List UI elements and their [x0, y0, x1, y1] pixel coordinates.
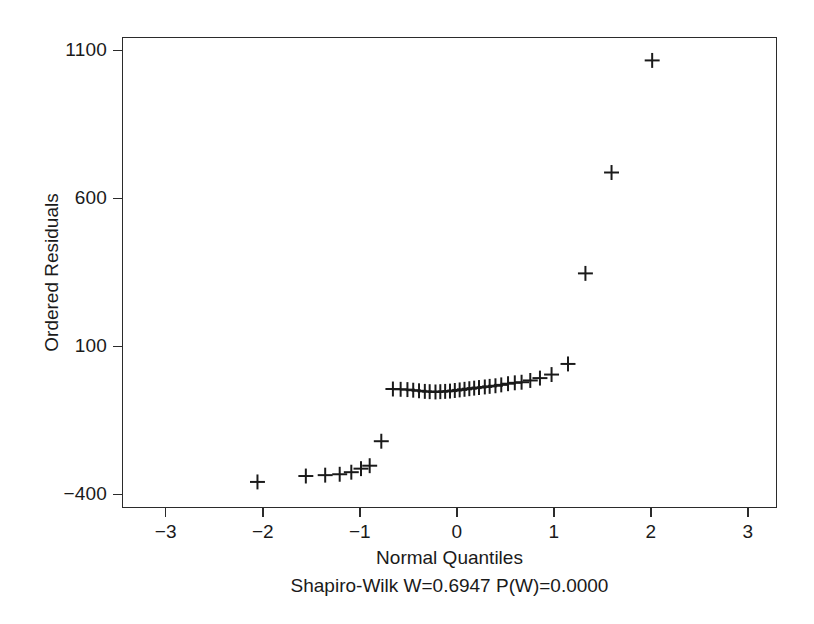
- x-axis-tick-label: 2: [646, 522, 657, 541]
- data-point-marker: [362, 458, 377, 473]
- data-point-marker: [578, 266, 593, 281]
- x-axis-tick-label: 1: [549, 522, 560, 541]
- x-axis-tick-mark: [262, 508, 264, 517]
- x-axis-tick-mark: [165, 508, 167, 517]
- data-point-marker: [604, 165, 619, 180]
- shapiro-wilk-statistic: Shapiro-Wilk W=0.6947 P(W)=0.0000: [122, 575, 777, 597]
- data-point-marker: [561, 356, 576, 371]
- qq-plot-figure: 1100600100−400 Ordered Residuals −3−2−10…: [0, 0, 814, 624]
- data-point-marker: [532, 371, 547, 386]
- x-axis-tick-mark: [456, 508, 458, 517]
- data-point-marker: [250, 474, 265, 489]
- data-point-marker: [318, 468, 333, 483]
- scatter-markers-layer: [123, 38, 776, 507]
- y-axis-title: Ordered Residuals: [38, 37, 66, 508]
- x-axis-tick-label: −2: [252, 522, 274, 541]
- y-axis-tick-label: −400: [63, 484, 107, 503]
- x-axis-title: Normal Quantiles: [122, 547, 777, 569]
- data-point-marker: [332, 467, 347, 482]
- y-axis-tick-label: 600: [75, 188, 107, 207]
- y-axis-tick-label: 100: [75, 336, 107, 355]
- x-axis-tick-label: −1: [349, 522, 371, 541]
- x-axis-tick-label: 3: [743, 522, 754, 541]
- y-axis-tick-label: 1100: [65, 40, 107, 59]
- data-point-marker: [514, 375, 529, 390]
- y-axis-tick-mark: [113, 346, 122, 348]
- y-axis-tick-mark: [113, 494, 122, 496]
- y-axis-tick-mark: [113, 50, 122, 52]
- data-point-marker: [544, 367, 559, 382]
- x-axis-tick-mark: [747, 508, 749, 517]
- x-axis-tick-label: 0: [451, 522, 462, 541]
- x-axis-tick-label: −3: [155, 522, 177, 541]
- x-axis: −3−2−10123: [0, 508, 814, 548]
- data-point-marker: [645, 53, 660, 68]
- x-axis-tick-mark: [650, 508, 652, 517]
- data-point-marker: [344, 465, 359, 480]
- data-point-marker: [354, 461, 369, 476]
- data-point-marker: [523, 373, 538, 388]
- plot-area: [122, 37, 777, 508]
- data-point-marker: [374, 434, 389, 449]
- x-axis-tick-mark: [359, 508, 361, 517]
- x-axis-tick-mark: [553, 508, 555, 517]
- data-point-marker: [298, 469, 313, 484]
- y-axis-tick-mark: [113, 198, 122, 200]
